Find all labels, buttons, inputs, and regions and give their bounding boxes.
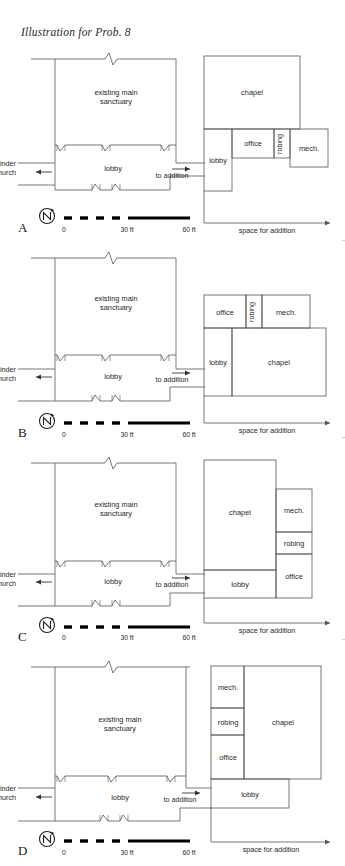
panel-d-drawing: existing main sanctuary lobby to remaind… bbox=[0, 645, 345, 866]
room-office: office bbox=[219, 753, 237, 762]
room-office: office bbox=[216, 308, 234, 317]
scale-mid: 30 ft bbox=[120, 226, 133, 233]
to-remainder-line2: of church bbox=[0, 168, 16, 177]
scale-end: 60 ft bbox=[182, 431, 195, 438]
space-for-addition-label: space for addition bbox=[239, 226, 296, 235]
to-remainder-line2: of church bbox=[0, 793, 16, 802]
panel-d: existing main sanctuary lobby to remaind… bbox=[0, 645, 345, 866]
room-mech: mech. bbox=[218, 683, 238, 692]
room-lobby: lobby bbox=[231, 580, 249, 589]
to-remainder-line1: to remainder bbox=[0, 159, 17, 168]
scale-zero: 0 bbox=[62, 849, 66, 856]
existing-lobby-label: lobby bbox=[104, 577, 122, 586]
sanctuary-label-line2: sanctuary bbox=[104, 724, 136, 733]
sanctuary-label-line1: existing main bbox=[94, 294, 137, 303]
sanctuary-label-line2: sanctuary bbox=[100, 97, 132, 106]
room-robing: robing bbox=[247, 302, 256, 322]
scale-mid: 30 ft bbox=[120, 849, 133, 856]
sanctuary-label-line1: existing main bbox=[94, 88, 137, 97]
panel-letter-d: D bbox=[18, 843, 27, 859]
room-lobby: lobby bbox=[209, 156, 227, 165]
room-lobby: lobby bbox=[241, 790, 259, 799]
sanctuary-label-line1: existing main bbox=[98, 715, 141, 724]
existing-lobby-label: lobby bbox=[104, 164, 122, 173]
to-addition-label: to addition bbox=[155, 580, 188, 589]
space-for-addition-label: space for addition bbox=[243, 845, 300, 854]
illustration-page: Illustration for Prob. 8 bbox=[0, 0, 345, 866]
room-mech: mech. bbox=[276, 308, 296, 317]
existing-lobby-label: lobby bbox=[104, 372, 122, 381]
panel-c: existing main sanctuary lobby to remaind… bbox=[0, 443, 345, 643]
to-addition-label: to addition bbox=[163, 795, 196, 804]
panel-a: existing main sanctuary lobby to remaind… bbox=[0, 45, 345, 245]
scale-end: 60 ft bbox=[182, 226, 195, 233]
room-mech: mech. bbox=[299, 144, 319, 153]
sanctuary-label-line1: existing main bbox=[94, 500, 137, 509]
scale-zero: 0 bbox=[62, 226, 66, 233]
to-remainder-line2: of church bbox=[0, 579, 16, 588]
scale-mid: 30 ft bbox=[120, 431, 133, 438]
room-office: office bbox=[285, 572, 303, 581]
figure-title: Illustration for Prob. 8 bbox=[21, 26, 131, 38]
room-office: office bbox=[244, 139, 262, 148]
room-chapel: chapel bbox=[272, 718, 294, 727]
panel-letter-c: C bbox=[18, 629, 27, 645]
to-remainder-line1: to remainder bbox=[0, 570, 17, 579]
room-robing: robing bbox=[275, 134, 284, 154]
to-remainder-line2: of church bbox=[0, 374, 16, 383]
room-chapel: chapel bbox=[241, 88, 263, 97]
panel-b-drawing: existing main sanctuary lobby to remaind… bbox=[0, 245, 345, 445]
to-remainder-line1: to remainder bbox=[0, 784, 17, 793]
sanctuary-label-line2: sanctuary bbox=[100, 303, 132, 312]
scale-end: 60 ft bbox=[182, 849, 195, 856]
room-chapel: chapel bbox=[268, 358, 290, 367]
scale-mid: 30 ft bbox=[120, 634, 133, 641]
panel-c-drawing: existing main sanctuary lobby to remaind… bbox=[0, 443, 345, 643]
to-addition-label: to addition bbox=[155, 171, 188, 180]
room-mech: mech. bbox=[284, 506, 304, 515]
room-lobby: lobby bbox=[209, 358, 227, 367]
room-robing: robing bbox=[218, 718, 239, 727]
panel-a-drawing: existing main sanctuary lobby to remaind… bbox=[0, 45, 345, 245]
scale-zero: 0 bbox=[62, 431, 66, 438]
space-for-addition-label: space for addition bbox=[239, 426, 296, 435]
panel-letter-b: B bbox=[18, 425, 27, 441]
space-for-addition-label: space for addition bbox=[239, 626, 296, 635]
panel-b: existing main sanctuary lobby to remaind… bbox=[0, 245, 345, 445]
room-robing: robing bbox=[284, 539, 305, 548]
scale-end: 60 ft bbox=[182, 634, 195, 641]
room-chapel: chapel bbox=[229, 508, 251, 517]
to-addition-label: to addition bbox=[155, 375, 188, 384]
sanctuary-label-line2: sanctuary bbox=[100, 509, 132, 518]
panel-letter-a: A bbox=[18, 220, 27, 236]
existing-lobby-label: lobby bbox=[111, 793, 129, 802]
to-remainder-line1: to remainder bbox=[0, 365, 17, 374]
scale-zero: 0 bbox=[62, 634, 66, 641]
